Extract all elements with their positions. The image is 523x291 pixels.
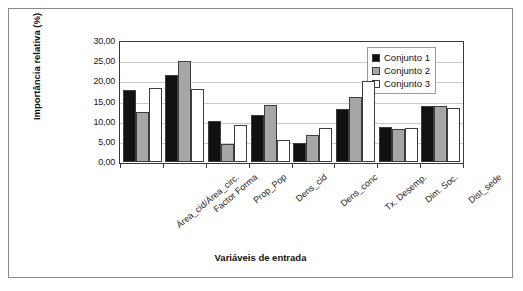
x-axis-tick-label: Dim. Soc. xyxy=(423,172,459,205)
y-axis-tick-label: 20,00 xyxy=(71,77,115,86)
bar[interactable] xyxy=(264,105,277,162)
bar[interactable] xyxy=(277,140,290,162)
legend-label: Conjunto 1 xyxy=(384,52,430,63)
bar[interactable] xyxy=(165,75,178,162)
y-axis-tick-label: 15,00 xyxy=(71,98,115,107)
legend-item[interactable]: Conjunto 3 xyxy=(372,77,430,90)
bar[interactable] xyxy=(293,143,306,162)
bar[interactable] xyxy=(392,129,405,162)
legend-swatch-icon xyxy=(372,67,380,75)
y-axis-title: Importância relativa (%) xyxy=(31,2,42,132)
legend-swatch-icon xyxy=(372,54,380,62)
bar[interactable] xyxy=(251,115,264,162)
x-axis-tick-label: Dens_conc xyxy=(338,172,379,209)
bar[interactable] xyxy=(123,90,136,162)
bar[interactable] xyxy=(306,135,319,162)
x-axis-tick-label: Dist_sede xyxy=(466,172,503,205)
bar-group xyxy=(164,43,207,162)
y-axis-tick-label: 10,00 xyxy=(71,118,115,127)
legend-label: Conjunto 3 xyxy=(384,78,430,89)
bar[interactable] xyxy=(405,128,418,162)
y-axis-tick-label: 25,00 xyxy=(71,57,115,66)
bar[interactable] xyxy=(421,106,434,162)
bar[interactable] xyxy=(208,121,221,162)
x-axis-tick-label: Dens_cid xyxy=(294,172,329,204)
bar[interactable] xyxy=(136,112,149,162)
legend-label: Conjunto 2 xyxy=(384,65,430,76)
y-axis-tick-label: 5,00 xyxy=(71,138,115,147)
bar[interactable] xyxy=(149,88,162,162)
bar-group xyxy=(292,43,335,162)
bar-group xyxy=(249,43,292,162)
legend-item[interactable]: Conjunto 2 xyxy=(372,64,430,77)
bar-group xyxy=(121,43,164,162)
bar[interactable] xyxy=(434,106,447,162)
bar[interactable] xyxy=(178,61,191,162)
x-axis-title: Variáveis de entrada xyxy=(9,252,512,263)
y-axis-tick-labels: 0,005,0010,0015,0020,0025,0030,00 xyxy=(67,41,115,164)
bar[interactable] xyxy=(221,144,234,162)
y-axis-tick-label: 30,00 xyxy=(71,37,115,46)
bar-group xyxy=(206,43,249,162)
legend: Conjunto 1Conjunto 2Conjunto 3 xyxy=(367,47,436,94)
bar[interactable] xyxy=(379,127,392,162)
x-axis-tick-labels: Área_cid/Área_circ.Factor FormaProp_PopD… xyxy=(119,164,464,244)
bar[interactable] xyxy=(319,128,332,162)
bar[interactable] xyxy=(362,81,375,162)
bar[interactable] xyxy=(191,89,204,162)
bar[interactable] xyxy=(234,125,247,162)
figure-frame: Importância relativa (%) 0,005,0010,0015… xyxy=(8,8,513,278)
chart-screenshot: Importância relativa (%) 0,005,0010,0015… xyxy=(0,0,523,291)
bar[interactable] xyxy=(447,108,460,162)
bar[interactable] xyxy=(336,109,349,162)
legend-item[interactable]: Conjunto 1 xyxy=(372,51,430,64)
x-axis-tick-label: Tx. Desemp. xyxy=(383,172,429,212)
bar[interactable] xyxy=(349,97,362,162)
y-axis-tick-label: 0,00 xyxy=(71,158,115,167)
